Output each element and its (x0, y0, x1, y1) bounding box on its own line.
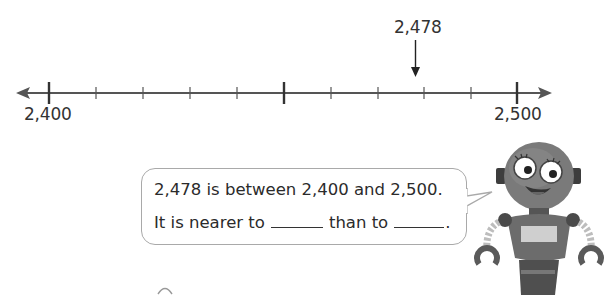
start-label: 2,400 (24, 104, 72, 124)
bubble-line-1: 2,478 is between 2,400 and 2,500. (154, 180, 443, 199)
nearer-to-text: It is nearer to (154, 213, 265, 232)
decorative-arc (155, 283, 175, 295)
bubble-line-2: It is nearer tothan to. (154, 213, 450, 232)
answer-blank-2[interactable] (394, 226, 444, 228)
period-text: . (445, 213, 450, 232)
robot-mascot-icon (455, 130, 607, 295)
down-arrow-icon (411, 67, 420, 77)
statement-text: 2,478 is between 2,400 and 2,500. (154, 180, 443, 199)
speech-bubble: 2,478 is between 2,400 and 2,500. It is … (141, 168, 467, 245)
marker-label: 2,478 (394, 17, 442, 37)
than-to-text: than to (329, 213, 388, 232)
end-label: 2,500 (494, 104, 542, 124)
answer-blank-1[interactable] (271, 226, 323, 228)
